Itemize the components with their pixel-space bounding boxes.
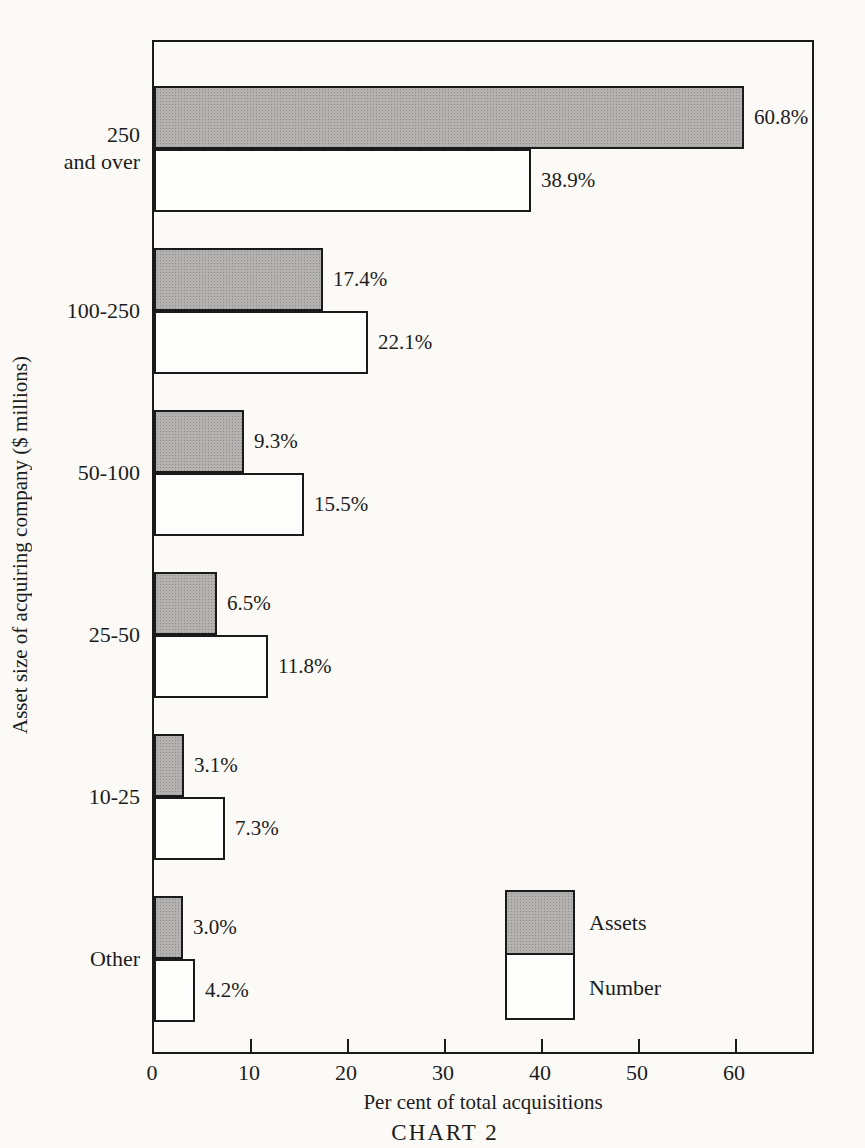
- assets-value-label-10-25: 3.1%: [194, 734, 238, 797]
- assets-bar-250-and-over: [154, 86, 744, 149]
- assets-value-label-250-and-over: 60.8%: [754, 86, 808, 149]
- number-bar-50-100: [154, 473, 304, 536]
- legend: Assets Number: [505, 890, 661, 1020]
- number-bar-25-50: [154, 635, 268, 698]
- category-label-250-and-over: 250and over: [0, 122, 140, 176]
- x-tick-30: [444, 1039, 446, 1052]
- number-value-label-250-and-over: 38.9%: [541, 149, 595, 212]
- legend-assets-swatch: [507, 892, 573, 955]
- x-tick-label-20: 20: [335, 1060, 357, 1086]
- assets-bar-10-25: [154, 734, 184, 797]
- category-label-50-100: 50-100: [0, 460, 140, 487]
- x-tick-label-50: 50: [626, 1060, 648, 1086]
- number-value-label-other: 4.2%: [205, 959, 249, 1022]
- assets-bar-other: [154, 896, 183, 959]
- x-tick-50: [638, 1039, 640, 1052]
- category-label-25-50: 25-50: [0, 622, 140, 649]
- assets-value-label-other: 3.0%: [193, 896, 237, 959]
- number-value-label-10-25: 7.3%: [235, 797, 279, 860]
- category-label-10-25: 10-25: [0, 784, 140, 811]
- number-bar-100-250: [154, 311, 368, 374]
- legend-swatch-box: [505, 890, 575, 1020]
- number-value-label-50-100: 15.5%: [314, 473, 368, 536]
- x-tick-60: [735, 1039, 737, 1052]
- x-tick-label-0: 0: [147, 1060, 158, 1086]
- x-tick-20: [347, 1039, 349, 1052]
- x-axis-label: Per cent of total acquisitions: [152, 1090, 814, 1115]
- chart-caption: CHART 2: [0, 1120, 865, 1146]
- number-value-label-25-50: 11.8%: [278, 635, 331, 698]
- x-tick-label-40: 40: [529, 1060, 551, 1086]
- assets-value-label-50-100: 9.3%: [254, 410, 298, 473]
- y-axis-label: Asset size of acquiring company ($ milli…: [8, 40, 33, 1050]
- assets-bar-100-250: [154, 248, 323, 311]
- x-tick-label-10: 10: [238, 1060, 260, 1086]
- assets-value-label-25-50: 6.5%: [227, 572, 271, 635]
- chart-page: Asset size of acquiring company ($ milli…: [0, 0, 865, 1148]
- legend-number-label: Number: [589, 955, 661, 1020]
- plot-area: Assets Number 60.8%38.9%250and over17.4%…: [152, 40, 814, 1054]
- x-tick-40: [541, 1039, 543, 1052]
- x-tick-label-30: 30: [432, 1060, 454, 1086]
- legend-labels: Assets Number: [589, 890, 661, 1020]
- assets-bar-25-50: [154, 572, 217, 635]
- number-bar-250-and-over: [154, 149, 531, 212]
- x-tick-10: [250, 1039, 252, 1052]
- category-label-other: Other: [0, 946, 140, 973]
- number-bar-other: [154, 959, 195, 1022]
- number-value-label-100-250: 22.1%: [378, 311, 432, 374]
- category-label-100-250: 100-250: [0, 298, 140, 325]
- assets-value-label-100-250: 17.4%: [333, 248, 387, 311]
- legend-assets-label: Assets: [589, 890, 661, 955]
- number-bar-10-25: [154, 797, 225, 860]
- legend-number-swatch: [507, 955, 573, 1018]
- x-tick-label-60: 60: [723, 1060, 745, 1086]
- assets-bar-50-100: [154, 410, 244, 473]
